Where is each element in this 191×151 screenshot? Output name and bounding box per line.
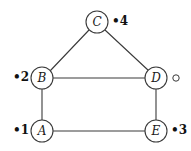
open-circle-marker [173,75,179,81]
marker-label-4: •4 [112,15,128,27]
vertex-circle-b [31,67,53,89]
graph-figure: C B D A E •4 •2 •1 •3 [0,0,191,151]
marker-label-2: •2 [13,71,29,83]
edge-c-d [105,30,149,71]
vertex-circle-group [31,11,167,142]
vertex-circle-a [31,120,53,142]
edge-b-c [50,30,89,71]
marker-label-3: •3 [171,124,187,136]
edge-group [42,30,156,131]
vertex-circle-d [145,67,167,89]
marker-label-1: •1 [13,124,29,136]
vertex-circle-e [145,120,167,142]
vertex-circle-c [86,11,108,33]
